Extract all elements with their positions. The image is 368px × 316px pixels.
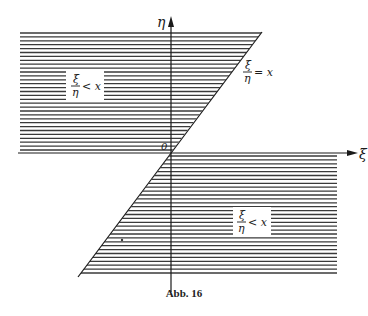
fraction-denominator: η (238, 222, 245, 235)
eta-axis-label: η (157, 14, 166, 30)
fraction-denominator: η (244, 72, 251, 85)
relation-text: < x (248, 216, 268, 229)
origin-label: 0 (161, 141, 168, 152)
eta-axis-arrow-icon (168, 16, 174, 27)
figure-abb-16: η ξ 0 ξ η < x ξ η = x ξ η < x Abb. 16 (0, 0, 368, 316)
xi-axis-arrow-icon (347, 150, 358, 156)
stray-dot (121, 239, 123, 241)
relation-text: = x (254, 66, 274, 79)
relation-text: < x (82, 80, 102, 93)
fraction-denominator: η (72, 86, 79, 99)
xi-axis-label: ξ (359, 146, 368, 162)
hatched-region-lower-right (70, 156, 340, 273)
diagram-canvas: η ξ 0 ξ η < x ξ η = x ξ η < x (0, 0, 368, 316)
fraction-numerator: ξ (73, 73, 80, 86)
hatched-region-upper-left (18, 33, 270, 150)
figure-caption: Abb. 16 (0, 287, 368, 299)
fraction-numerator: ξ (239, 209, 246, 222)
boundary-line-label: ξ η = x (243, 59, 274, 85)
fraction-numerator: ξ (245, 59, 252, 72)
